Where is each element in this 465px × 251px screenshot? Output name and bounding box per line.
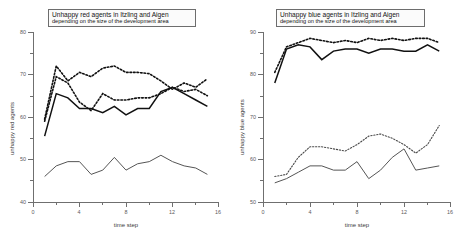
figure-container: Unhappy red agents in Itzling and Aigen … <box>0 0 465 251</box>
chart-panel-blue: Unhappy blue agents in Itzling and Aigen… <box>232 0 465 251</box>
series-line <box>275 45 440 83</box>
series-line <box>275 38 440 72</box>
series-canvas-blue <box>232 0 465 251</box>
series-line <box>45 87 208 136</box>
series-canvas-red <box>0 0 232 251</box>
series-line <box>45 155 208 176</box>
series-line <box>275 149 440 183</box>
chart-panel-red: Unhappy red agents in Itzling and Aigen … <box>0 0 232 251</box>
